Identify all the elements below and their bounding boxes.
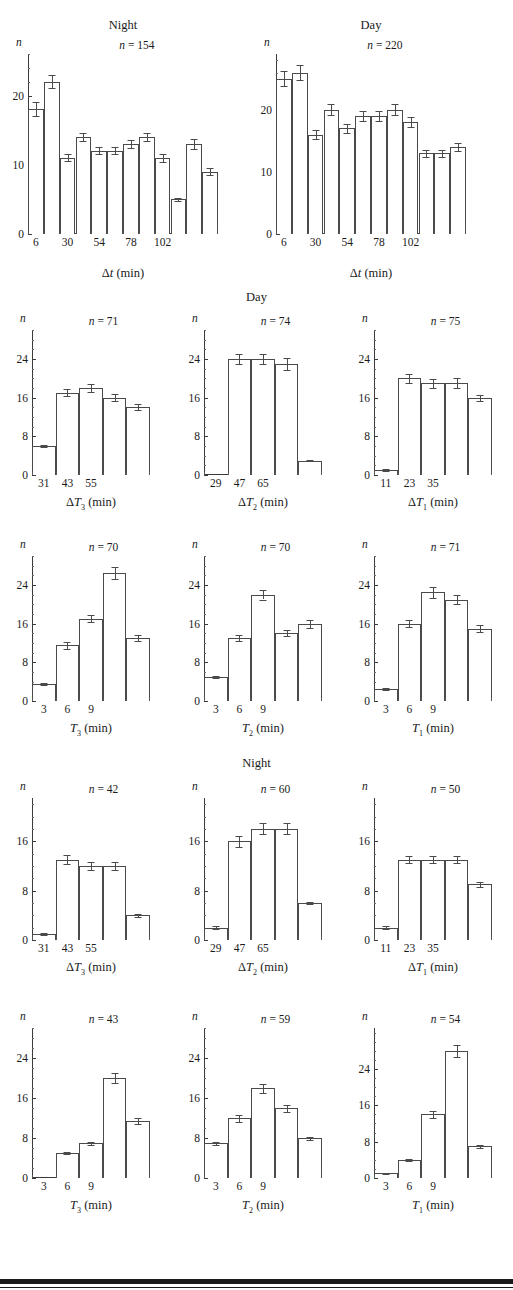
error-bar-cap [48,75,55,76]
error-bar-cap [453,604,460,605]
plot-area-night-dt: 010206305478102 [28,54,218,234]
bar [103,866,127,940]
error-bar [239,836,240,847]
x-tick-label: 29 [210,942,222,954]
bar [298,903,322,940]
error-bar [433,587,434,598]
y-minor-tick [32,604,34,605]
error-bar-cap [111,1073,118,1074]
y-minor-tick [32,1068,34,1069]
x-bin-tick [398,472,399,475]
x-bin-tick [204,472,205,475]
x-bin-tick [251,1175,252,1178]
bar [186,144,202,234]
sample-size-label-day-dT3: n = 71 [89,315,119,327]
y-major-tick [32,1178,36,1179]
error-bar [480,625,481,632]
y-minor-tick [204,446,206,447]
y-major-tick [374,940,378,941]
y-minor-tick [374,829,376,830]
y-minor-tick [374,682,376,683]
error-bar-cap [307,902,314,903]
error-bar [115,862,116,869]
error-bar-cap [453,595,460,596]
error-bar-cap [360,121,367,122]
x-tick-label: 43 [62,477,74,489]
y-minor-tick [374,340,376,341]
x-axis-title-night-dt: Δt (min) [28,266,218,281]
x-tick-label: 3 [213,1180,219,1192]
plot-area-day-T3: 081624369 [32,556,150,701]
x-axis-title-night-dT3: ΔT3 (min) [32,960,150,977]
y-axis-day-T3 [32,556,33,701]
x-bin-tick [79,472,80,475]
error-bar-cap [40,445,47,446]
sample-size-label-night-dT3: n = 42 [89,783,119,795]
sample-size-label-night-T3: n = 43 [89,1013,119,1025]
error-bar-cap [135,641,142,642]
y-minor-tick [204,614,206,615]
error-bar-cap [260,1093,267,1094]
error-bar-cap [430,587,437,588]
x-tick-label: 3 [213,703,219,715]
y-minor-tick [374,465,376,466]
error-bar-cap [40,683,47,684]
y-minor-tick [204,643,206,644]
bar [421,1114,445,1178]
x-bin-tick [32,1175,33,1178]
error-bar-cap [283,630,290,631]
y-minor-tick [204,866,206,867]
y-minor-tick [204,369,206,370]
x-bin-tick [298,937,299,940]
x-bin-tick [374,698,375,701]
error-bar-cap [477,1145,484,1146]
y-minor-tick [374,595,376,596]
y-minor-tick [32,566,34,567]
x-tick-label: 6 [65,1180,71,1192]
error-bar-cap [430,1118,437,1119]
error-bar-cap [296,80,303,81]
error-bar [310,620,311,628]
y-major-tick [32,891,36,892]
x-tick-label: 3 [383,1180,389,1192]
bar [398,1160,422,1178]
bar [56,393,80,475]
error-bar-cap [32,102,39,103]
x-tick-label: 9 [88,703,94,715]
x-bin-tick [28,231,29,234]
y-major-tick [374,475,378,476]
error-bar-cap [382,1174,389,1175]
y-minor-tick [32,653,34,654]
error-bar-cap [280,71,287,72]
y-minor-tick [32,804,34,805]
x-bin-tick [374,472,375,475]
bar [292,73,308,234]
error-bar-cap [283,1105,290,1106]
error-bar [239,354,240,364]
error-bar-cap [453,378,460,379]
x-tick-label: 3 [41,1180,47,1192]
error-bar-cap [453,856,460,857]
error-bar-cap [111,394,118,395]
error-bar-cap [212,1145,219,1146]
bar [251,595,275,701]
x-tick-label: 102 [154,236,171,248]
y-minor-tick [374,672,376,673]
x-bin-tick [276,231,277,234]
error-bar-cap [260,1084,267,1085]
y-minor-tick [374,1160,376,1161]
error-bar-cap [143,141,150,142]
x-bin-tick [321,698,322,701]
x-bin-tick [79,698,80,701]
x-tick-label: 31 [38,942,50,954]
error-bar-cap [312,130,319,131]
y-axis-label-night-T1: n [362,1010,368,1022]
bar [468,884,492,940]
y-axis-label-night-dt: n [16,36,22,48]
error-bar [91,862,92,869]
error-bar [115,394,116,401]
bar [126,407,150,475]
x-bin-tick [155,231,156,234]
bar [60,158,76,234]
error-bar-cap [111,401,118,402]
